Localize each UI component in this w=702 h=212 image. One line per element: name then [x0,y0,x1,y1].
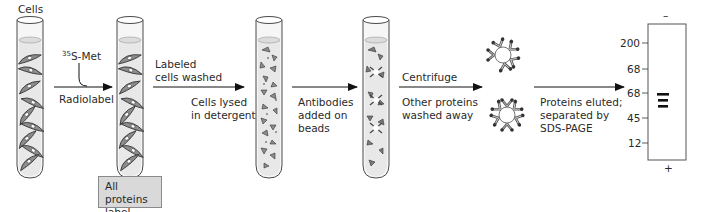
label-line: Other proteins [402,96,478,109]
gel-cathode-label: – [663,9,668,22]
label-line: washed away [402,109,478,122]
label-radiolabel: Radiolabel [59,93,114,106]
label-cells: Cells [18,3,43,16]
sds-page-gel [642,24,686,160]
label-line: SDS-PAGE [540,122,622,135]
gel-band-2 [658,99,668,102]
result-box-line-1: All proteins [105,180,161,206]
label-cells-lysed: Cells lysed in detergent [191,96,256,122]
gel-marker-68-upper: 68 [627,63,640,76]
gel-band-1 [657,93,669,96]
result-box-line-2: label [105,206,161,212]
antibody-bead-lower [489,98,525,132]
gel-band-3 [658,105,668,108]
test-tube-antibody-beads [363,17,389,179]
label-line: Cells lysed [191,96,256,109]
label-line: Proteins eluted; [540,96,622,109]
label-line: cells washed [155,71,222,84]
label-proteins-eluted: Proteins eluted; separated by SDS-PAGE [540,96,622,135]
gel-marker-200: 200 [620,37,640,50]
label-line: beads [298,122,353,135]
test-tube-lysate [256,17,282,179]
label-line: in detergent [191,109,256,122]
label-labeled-cells-washed: Labeled cells washed [155,58,222,84]
gel-marker-68-lower: 68 [627,87,640,100]
label-line: added on [298,109,353,122]
gel-anode-label: + [664,162,673,175]
label-centrifuge: Centrifuge [402,71,457,84]
result-box-all-proteins-label: All proteins label [98,176,162,208]
arrow-radiolabel [54,63,112,87]
label-isotope: 35S-Met [62,48,101,63]
label-line: Labeled [155,58,222,71]
label-line: separated by [540,109,622,122]
antibody-bead-upper [486,37,521,73]
label-line: Antibodies [298,96,353,109]
isotope-name: S-Met [71,50,101,62]
isotope-mass: 35 [62,50,71,58]
label-other-proteins-washed: Other proteins washed away [402,96,478,122]
gel-marker-45: 45 [627,112,640,125]
test-tube-cells [15,17,44,179]
label-antibodies-added: Antibodies added on beads [298,96,353,135]
test-tube-labeled-cells [115,17,144,179]
gel-marker-12: 12 [628,137,641,150]
